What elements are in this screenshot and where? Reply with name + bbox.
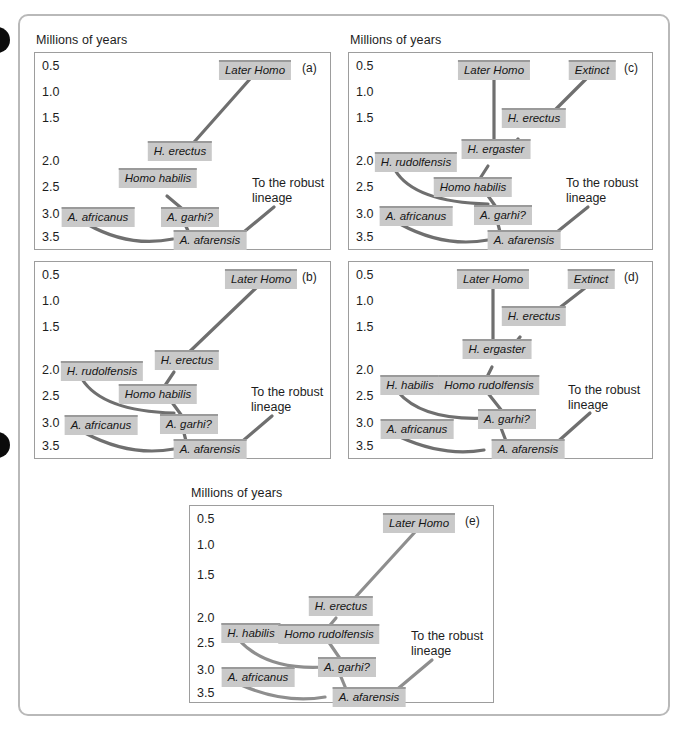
panel-c-tick-3: 2.0 — [356, 154, 373, 168]
panel-c-tick-6: 3.5 — [356, 230, 373, 244]
panel-b-letter: (b) — [302, 270, 317, 284]
panel-b: 0.5 1.0 1.5 2.0 2.5 3.0 3.5 (b) Later Ho… — [34, 261, 331, 459]
panel-d-tick-5: 3.0 — [356, 416, 373, 430]
panel-a-tick-3: 2.0 — [42, 154, 59, 168]
panel-a-tick-5: 3.0 — [42, 207, 59, 221]
taxon-h-erectus[interactable]: H. erectus — [502, 306, 566, 326]
panel-c-tick-4: 2.5 — [356, 180, 373, 194]
taxon-a-africanus[interactable]: A. africanus — [62, 207, 135, 227]
panel-e-tick-0: 0.5 — [197, 512, 214, 526]
page-binding-mark-top — [0, 27, 10, 53]
taxon-later-homo[interactable]: Later Homo — [458, 60, 530, 80]
panel-e-tick-6: 3.5 — [197, 686, 214, 700]
taxon-h-habilis[interactable]: H. habilis — [380, 375, 439, 395]
taxon-homo-habilis[interactable]: Homo habilis — [119, 384, 197, 404]
panel-e-tick-5: 3.0 — [197, 663, 214, 677]
taxon-a-africanus[interactable]: A. africanus — [380, 206, 453, 226]
taxon-h-rudolfensis[interactable]: H. rudolfensis — [61, 361, 143, 381]
taxon-h-erectus[interactable]: H. erectus — [502, 108, 566, 128]
taxon-h-ergaster[interactable]: H. ergaster — [462, 139, 531, 159]
taxon-a-afarensis[interactable]: A. afarensis — [333, 687, 406, 707]
panel-a-tick-6: 3.5 — [42, 230, 59, 244]
panel-d-letter: (d) — [624, 270, 639, 284]
panel-d-tick-0: 0.5 — [356, 268, 373, 282]
panel-a-tick-4: 2.5 — [42, 180, 59, 194]
taxon-a-africanus[interactable]: A. africanus — [222, 667, 295, 687]
taxon-a-africanus[interactable]: A. africanus — [65, 415, 138, 435]
taxon-a-africanus[interactable]: A. africanus — [381, 419, 454, 439]
taxon-later-homo[interactable]: Later Homo — [383, 513, 455, 533]
taxon-homo-rudolfensis[interactable]: Homo rudolfensis — [438, 375, 539, 395]
panel-c-tick-1: 1.0 — [356, 85, 373, 99]
taxon-homo-rudolfensis[interactable]: Homo rudolfensis — [278, 624, 379, 644]
panel-a-letter: (a) — [302, 61, 317, 75]
panel-e-tick-4: 2.5 — [197, 636, 214, 650]
panel-d-tick-2: 1.5 — [356, 320, 373, 334]
panel-d-tick-6: 3.5 — [356, 439, 373, 453]
taxon-later-homo[interactable]: Later Homo — [219, 60, 291, 80]
panel-a-robust-note: To the robust lineage — [252, 176, 324, 206]
panel-c: Millions of years 0.5 1.0 1.5 2.0 2.5 3.… — [348, 52, 653, 250]
taxon-a-afarensis[interactable]: A. afarensis — [174, 230, 247, 250]
panel-e-axis-title: Millions of years — [191, 486, 282, 500]
taxon-h-rudolfensis[interactable]: H. rudolfensis — [375, 152, 457, 172]
panel-b-tick-5: 3.0 — [42, 416, 59, 430]
taxon-later-homo[interactable]: Later Homo — [457, 269, 529, 289]
panel-d-tick-3: 2.0 — [356, 363, 373, 377]
panel-c-tick-0: 0.5 — [356, 59, 373, 73]
panel-a-axis-title: Millions of years — [36, 33, 127, 47]
panel-e: Millions of years 0.5 1.0 1.5 2.0 2.5 3.… — [189, 505, 494, 703]
panel-a-tick-0: 0.5 — [42, 59, 59, 73]
panel-c-robust-note: To the robust lineage — [566, 176, 638, 206]
panel-b-tick-2: 1.5 — [42, 320, 59, 334]
panel-e-tick-2: 1.5 — [197, 568, 214, 582]
taxon-a-afarensis[interactable]: A. afarensis — [492, 439, 565, 459]
panel-a-tick-1: 1.0 — [42, 85, 59, 99]
taxon-a-garhi[interactable]: A. garhi? — [478, 409, 536, 429]
panel-b-tick-1: 1.0 — [42, 294, 59, 308]
panel-c-axis-title: Millions of years — [350, 33, 441, 47]
panel-d-robust-note: To the robust lineage — [568, 383, 640, 413]
taxon-a-afarensis[interactable]: A. afarensis — [174, 439, 247, 459]
taxon-h-erectus[interactable]: H. erectus — [148, 141, 212, 161]
taxon-a-garhi[interactable]: A. garhi? — [160, 414, 218, 434]
taxon-h-erectus[interactable]: H. erectus — [309, 596, 373, 616]
taxon-a-garhi[interactable]: A. garhi? — [474, 205, 532, 225]
taxon-homo-habilis[interactable]: Homo habilis — [119, 168, 197, 188]
panel-d: 0.5 1.0 1.5 2.0 2.5 3.0 3.5 (d) Later Ho… — [348, 261, 653, 459]
panel-c-letter: (c) — [624, 61, 638, 75]
panel-c-tick-5: 3.0 — [356, 207, 373, 221]
taxon-a-garhi[interactable]: A. garhi? — [318, 657, 376, 677]
panel-e-tick-1: 1.0 — [197, 538, 214, 552]
taxon-a-garhi[interactable]: A. garhi? — [161, 207, 219, 227]
taxon-later-homo[interactable]: Later Homo — [225, 269, 297, 289]
taxon-a-afarensis[interactable]: A. afarensis — [488, 230, 561, 250]
panel-a-tick-2: 1.5 — [42, 111, 59, 125]
panel-b-tick-6: 3.5 — [42, 439, 59, 453]
taxon-h-habilis[interactable]: H. habilis — [221, 623, 280, 643]
panel-b-robust-note: To the robust lineage — [251, 385, 323, 415]
panel-e-robust-note: To the robust lineage — [411, 629, 483, 659]
taxon-extinct[interactable]: Extinct — [568, 269, 615, 289]
panel-d-tick-1: 1.0 — [356, 294, 373, 308]
panel-b-tick-0: 0.5 — [42, 268, 59, 282]
panel-e-tick-3: 2.0 — [197, 611, 214, 625]
panel-b-tick-4: 2.5 — [42, 389, 59, 403]
panel-c-tick-2: 1.5 — [356, 111, 373, 125]
taxon-h-ergaster[interactable]: H. ergaster — [463, 339, 532, 359]
panel-e-letter: (e) — [465, 514, 480, 528]
panel-b-tick-3: 2.0 — [42, 363, 59, 377]
panel-d-tick-4: 2.5 — [356, 389, 373, 403]
taxon-h-erectus[interactable]: H. erectus — [155, 350, 219, 370]
taxon-extinct[interactable]: Extinct — [569, 60, 616, 80]
page-binding-mark-bottom — [0, 432, 10, 458]
taxon-homo-habilis[interactable]: Homo habilis — [434, 177, 512, 197]
panel-a: Millions of years 0.5 1.0 1.5 2.0 2.5 3.… — [34, 52, 331, 250]
